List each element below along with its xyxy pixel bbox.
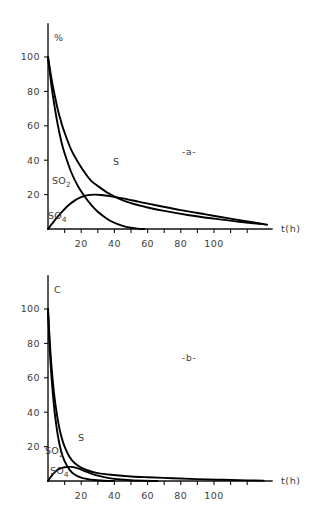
y-tick-label-a-40: 40: [27, 155, 40, 166]
y-tick-label-a-20: 20: [27, 189, 40, 200]
x-axis-title-b: t(h): [281, 475, 301, 486]
panel-a-labels: %t(h)-a-SSO2SO4: [48, 32, 301, 234]
x-tick-label-b-40: 40: [108, 490, 121, 501]
panel-annotation-a: -a-: [182, 147, 196, 157]
panel-annotation-b: -b-: [182, 353, 197, 363]
curve-a-so4: [48, 195, 267, 229]
y-axis-title-a: %: [54, 32, 64, 43]
y-tick-label-a-100: 100: [21, 51, 40, 62]
panel-b-figure: 20406080100 20406080100 Ct(h)-b-SSO2SO4: [0, 264, 319, 528]
x-tick-label-a-40: 40: [108, 238, 121, 249]
x-tick-label-a-100: 100: [204, 238, 223, 249]
panel-b-plot: 20406080100 20406080100 Ct(h)-b-SSO2SO4: [0, 264, 319, 528]
y-tick-label-b-20: 20: [27, 441, 40, 452]
y-ticks-b: 20406080100: [21, 303, 48, 452]
panel-a-figure: 20406080100 20406080100 %t(h)-a-SSO2SO4: [0, 0, 319, 264]
panel-b-curves: [48, 309, 264, 481]
y-tick-label-a-60: 60: [27, 120, 40, 131]
curve-label-a-so4: SO4: [48, 210, 67, 224]
y-tick-label-b-100: 100: [21, 303, 40, 314]
curve-b-s: [48, 309, 264, 481]
x-tick-label-a-80: 80: [174, 238, 187, 249]
x-ticks-a: 20406080100: [65, 229, 248, 249]
curve-label-a-s: S: [113, 156, 119, 167]
curve-label-b-s: S: [78, 432, 84, 443]
y-tick-label-a-80: 80: [27, 86, 40, 97]
panel-a-curves: [48, 57, 267, 229]
curve-a-s: [48, 57, 260, 224]
y-tick-label-b-60: 60: [27, 372, 40, 383]
panel-a-plot: 20406080100 20406080100 %t(h)-a-SSO2SO4: [0, 0, 319, 264]
x-tick-label-b-80: 80: [174, 490, 187, 501]
y-tick-label-b-40: 40: [27, 407, 40, 418]
x-ticks-b: 20406080100: [65, 481, 248, 501]
x-tick-label-b-60: 60: [141, 490, 154, 501]
y-axis-title-b: C: [54, 284, 61, 295]
x-tick-label-b-100: 100: [204, 490, 223, 501]
y-ticks-a: 20406080100: [21, 51, 48, 200]
x-axis-title-a: t(h): [281, 223, 301, 234]
x-tick-label-b-20: 20: [75, 490, 88, 501]
x-tick-label-a-20: 20: [75, 238, 88, 249]
y-tick-label-b-80: 80: [27, 338, 40, 349]
panel-b-labels: Ct(h)-b-SSO2SO4: [45, 284, 301, 486]
x-tick-label-a-60: 60: [141, 238, 154, 249]
curve-label-a-so2: SO2: [52, 175, 71, 189]
